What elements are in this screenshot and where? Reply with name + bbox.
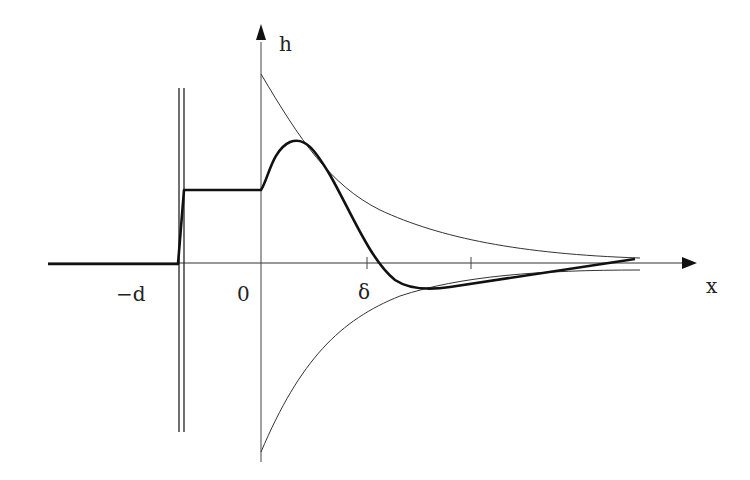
tick-label-delta: δ [358,282,370,302]
diagram-svg [0,0,750,480]
y-axis-arrow-icon [256,24,266,40]
wave-profile [48,141,635,289]
tick-label-zero: 0 [237,284,250,304]
upper-envelope [261,74,640,258]
diagram-canvas: h x −d 0 δ [0,0,750,480]
x-axis-label: x [706,276,717,296]
lower-envelope [261,270,640,452]
y-axis-label: h [279,34,292,54]
tick-label-minus-d: −d [116,284,146,304]
x-axis-arrow-icon [682,257,697,269]
